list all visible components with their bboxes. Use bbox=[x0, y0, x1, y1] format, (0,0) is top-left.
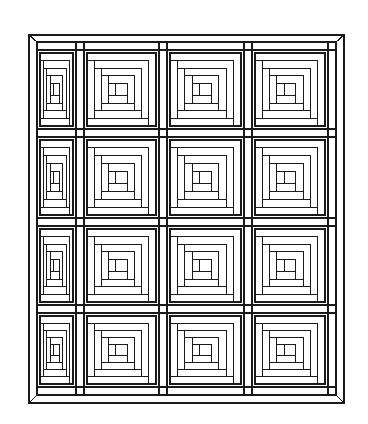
quilt-block bbox=[40, 140, 73, 215]
block-center bbox=[284, 344, 296, 355]
quilt-blocks bbox=[37, 42, 336, 395]
quilt-block bbox=[170, 229, 241, 302]
block-center bbox=[200, 259, 212, 271]
block-center bbox=[54, 83, 60, 95]
block-center bbox=[54, 259, 60, 271]
block-center bbox=[200, 344, 212, 355]
quilt-block bbox=[255, 229, 325, 302]
block-outline bbox=[40, 53, 73, 126]
frame-bevel-tl bbox=[29, 35, 37, 42]
block-center bbox=[116, 259, 128, 271]
block-center bbox=[284, 259, 296, 271]
quilt-block bbox=[255, 53, 325, 126]
block-outline bbox=[87, 140, 156, 215]
quilt-block bbox=[40, 316, 73, 384]
block-outline bbox=[255, 140, 325, 215]
block-center bbox=[116, 171, 128, 184]
block-center bbox=[116, 344, 128, 355]
frame-bevel-tr bbox=[336, 35, 344, 42]
block-outline bbox=[255, 53, 325, 126]
block-center bbox=[284, 171, 296, 184]
frame-bevel-br bbox=[336, 395, 344, 403]
quilt-block bbox=[40, 229, 73, 302]
block-outline bbox=[40, 140, 73, 215]
quilt-diagram bbox=[0, 0, 368, 424]
block-outline bbox=[170, 229, 241, 302]
quilt-block bbox=[170, 140, 241, 215]
block-center bbox=[200, 171, 212, 184]
quilt-block bbox=[255, 316, 325, 384]
block-outline bbox=[255, 229, 325, 302]
block-center bbox=[200, 83, 212, 95]
quilt-block bbox=[170, 316, 241, 384]
quilt-block bbox=[87, 229, 156, 302]
block-outline bbox=[170, 53, 241, 126]
quilt-block bbox=[40, 53, 73, 126]
block-outline bbox=[87, 229, 156, 302]
quilt-block bbox=[87, 53, 156, 126]
block-outline bbox=[170, 140, 241, 215]
block-center bbox=[116, 83, 128, 95]
quilt-block bbox=[255, 140, 325, 215]
block-center bbox=[54, 344, 60, 355]
block-outline bbox=[40, 229, 73, 302]
frame-bevel-bl bbox=[29, 395, 37, 403]
block-outline bbox=[170, 316, 241, 384]
quilt-block bbox=[170, 53, 241, 126]
block-outline bbox=[87, 316, 156, 384]
block-outline bbox=[40, 316, 73, 384]
block-outline bbox=[255, 316, 325, 384]
quilt-block bbox=[87, 140, 156, 215]
block-center bbox=[284, 83, 296, 95]
quilt-block bbox=[87, 316, 156, 384]
block-center bbox=[54, 171, 60, 184]
block-outline bbox=[87, 53, 156, 126]
